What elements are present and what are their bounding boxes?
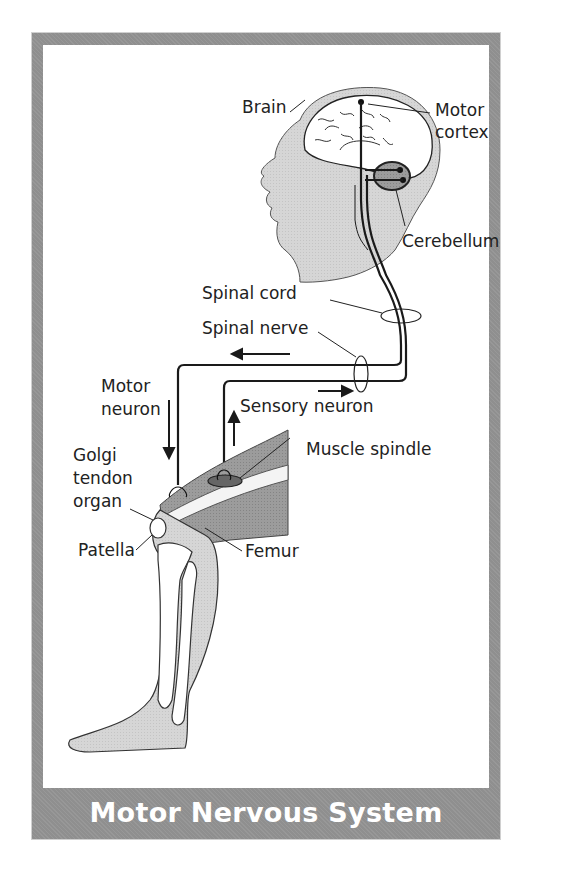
label-motor-neuron-1: Motor: [101, 375, 150, 397]
label-golgi-2: tendon: [73, 467, 133, 489]
muscle-spindle-shape: [208, 475, 242, 487]
label-spinal-nerve: Spinal nerve: [202, 317, 308, 339]
label-golgi-3: organ: [73, 490, 122, 512]
label-motor-neuron-2: neuron: [101, 398, 161, 420]
label-brain: Brain: [242, 96, 287, 118]
label-spinal-cord: Spinal cord: [202, 282, 297, 304]
label-femur: Femur: [245, 540, 299, 562]
label-motor-cortex-2: cortex: [435, 121, 489, 143]
label-cerebellum: Cerebellum: [402, 230, 499, 252]
spinal-nerve-marker: [354, 356, 368, 392]
label-muscle-spindle: Muscle spindle: [306, 438, 431, 460]
patella-shape: [150, 518, 166, 538]
diagram-title: Motor Nervous System: [32, 788, 500, 838]
label-patella: Patella: [78, 539, 135, 561]
label-golgi-1: Golgi: [73, 444, 117, 466]
label-sensory-neuron: Sensory neuron: [240, 395, 374, 417]
label-motor-cortex-1: Motor: [435, 99, 484, 121]
